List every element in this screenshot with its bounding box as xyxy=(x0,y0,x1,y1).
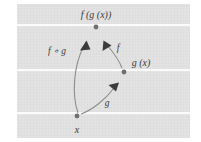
diagram-canvas: f (g (x)) g (x) x g f f ∘ g xyxy=(0,0,201,142)
label-x: x xyxy=(74,124,80,135)
label-gx: g (x) xyxy=(132,57,151,69)
label-arrow-g: g xyxy=(105,98,110,108)
point-gx xyxy=(122,70,127,75)
function-composition-figure: f (g (x)) g (x) x g f f ∘ g xyxy=(0,0,201,142)
band-separator-3 xyxy=(17,112,190,114)
band-separator-2 xyxy=(17,69,190,71)
point-fgx xyxy=(94,25,99,30)
label-arrow-fog: f ∘ g xyxy=(48,46,66,56)
band-separator-1 xyxy=(17,24,190,26)
label-fgx: f (g (x)) xyxy=(81,9,112,21)
point-x xyxy=(75,114,80,119)
